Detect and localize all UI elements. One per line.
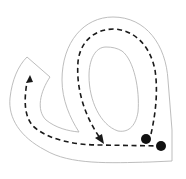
start-dot-1 <box>141 134 151 144</box>
arrow-up-left-arm-icon <box>26 75 33 83</box>
guide-dashed-bottom <box>25 82 162 146</box>
tracing-svg <box>0 0 186 179</box>
track-inner-hole <box>89 47 138 131</box>
arrow-down-loop-icon <box>95 134 104 144</box>
tracing-diagram <box>0 0 186 179</box>
start-dot-2 <box>156 141 166 151</box>
